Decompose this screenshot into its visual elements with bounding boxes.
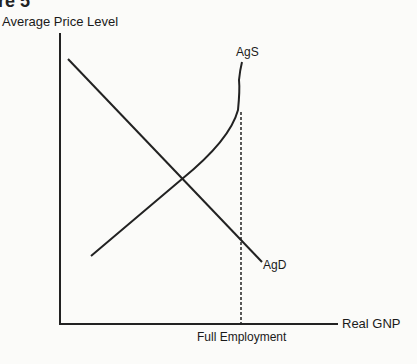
full-employment-label: Full Employment bbox=[197, 330, 286, 344]
y-axis-label: Average Price Level bbox=[2, 14, 118, 29]
agd-label: AgD bbox=[263, 258, 286, 272]
x-axis-label: Real GNP bbox=[342, 316, 401, 331]
aggregate-supply-demand-diagram bbox=[0, 0, 417, 364]
ags-label: AgS bbox=[236, 45, 259, 59]
agd-curve bbox=[68, 59, 262, 262]
ags-curve bbox=[91, 62, 242, 256]
